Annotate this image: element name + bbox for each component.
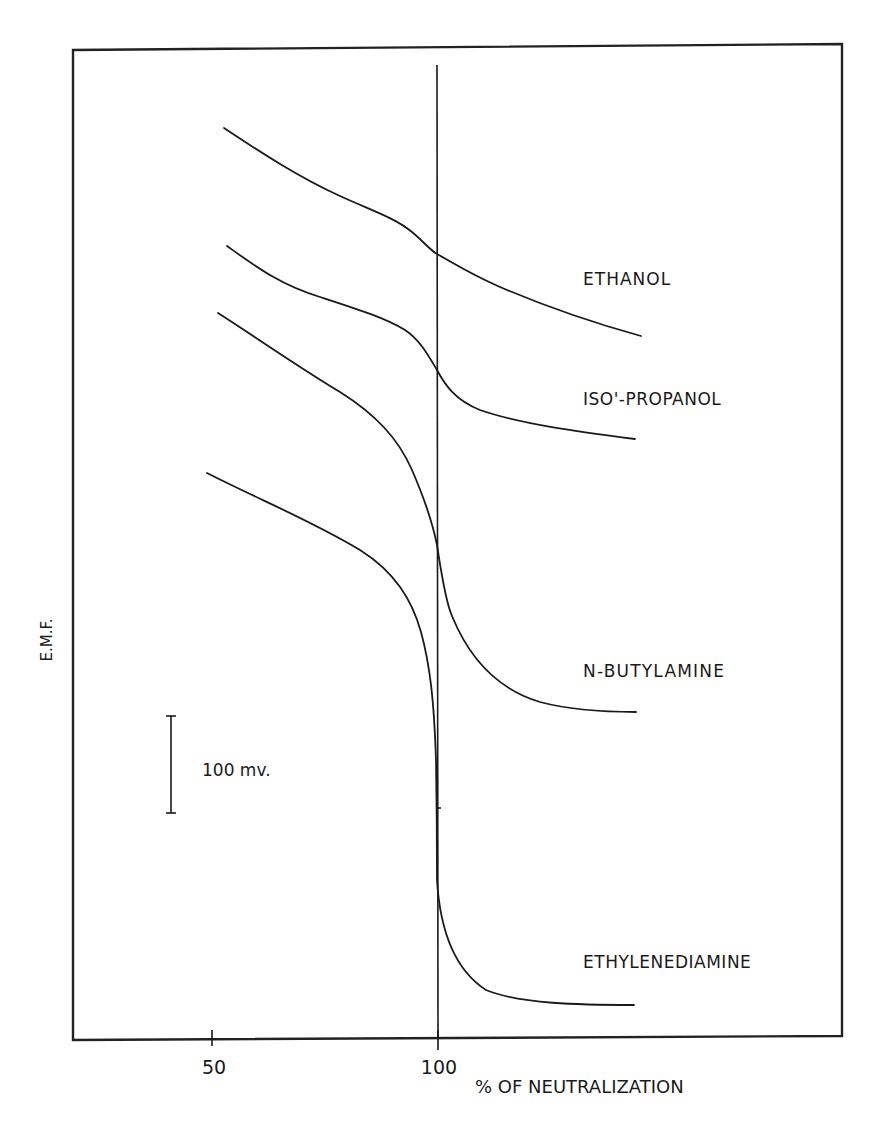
label-isopropanol: ISO'-PROPANOL — [583, 389, 721, 409]
x-tick-label-50: 50 — [202, 1056, 226, 1078]
curve-ethylenediamine — [207, 473, 634, 1005]
titration-chart: 100 mv. E.M.F. 50 100 % OF NEUTRALIZATIO… — [0, 0, 877, 1133]
label-ethanol: ETHANOL — [583, 269, 671, 289]
x-axis-label: % OF NEUTRALIZATION — [475, 1076, 684, 1097]
curve-n-butylamine — [218, 313, 636, 712]
x-tick-label-100: 100 — [421, 1056, 457, 1078]
label-n-butylamine: N-BUTYLAMINE — [583, 661, 725, 681]
scale-bar-label: 100 mv. — [202, 760, 271, 780]
label-ethylenediamine: ETHYLENEDIAMINE — [583, 952, 751, 972]
plot-frame — [73, 44, 842, 1040]
y-axis-label: E.M.F. — [38, 619, 56, 662]
curve-ethanol — [224, 128, 641, 336]
curve-isopropanol — [227, 246, 635, 439]
